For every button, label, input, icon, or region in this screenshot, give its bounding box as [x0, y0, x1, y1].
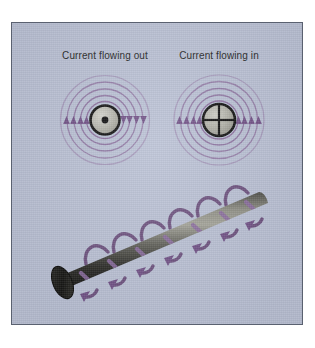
- diagram-panel: Current flowing out Current flowing in: [11, 22, 303, 325]
- cross-section-current-out: [50, 70, 160, 170]
- label-current-flowing-out: Current flowing out: [50, 50, 160, 61]
- figure-root: Current flowing out Current flowing in: [0, 0, 315, 348]
- wire-with-field-loops: [40, 178, 288, 303]
- field-loops-back: [85, 187, 248, 264]
- wire-cylinder: [47, 192, 268, 302]
- current-out-dot-icon: [102, 117, 109, 124]
- cross-section-current-in: [164, 70, 274, 170]
- label-current-flowing-in: Current flowing in: [164, 50, 274, 61]
